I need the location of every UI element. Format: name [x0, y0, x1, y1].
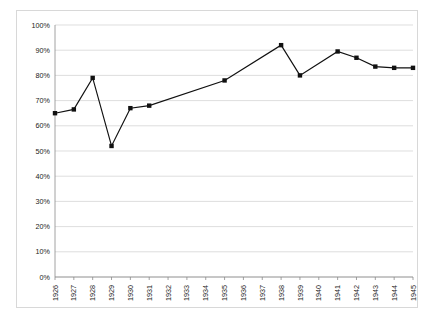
data-point-marker — [373, 64, 377, 68]
x-axis-tick-label: 1945 — [409, 285, 418, 301]
data-point-marker — [147, 103, 151, 107]
chart-frame: 0%10%20%30%40%50%60%70%80%90%100% 192619… — [16, 10, 418, 308]
x-axis-tick-label: 1932 — [164, 285, 173, 301]
y-axis-tick-label: 20% — [36, 222, 51, 231]
x-axis-labels-group: 1926192719281929193019311932193319341935… — [51, 285, 418, 301]
x-axis-tick-label: 1930 — [126, 285, 135, 301]
x-axis-tick-label: 1929 — [107, 285, 116, 301]
x-axis-tick-label: 1931 — [145, 285, 154, 301]
x-axis-tick-label: 1934 — [201, 285, 210, 301]
x-axis-tick-label: 1943 — [371, 285, 380, 301]
series-line-1 — [55, 45, 413, 146]
y-axis-tick-label: 80% — [36, 71, 51, 80]
y-axis-tick-label: 60% — [36, 121, 51, 130]
x-axis-tick-label: 1939 — [296, 285, 305, 301]
data-point-marker — [72, 107, 76, 111]
data-point-marker — [109, 144, 113, 148]
y-axis-tick-label: 40% — [36, 172, 51, 181]
line-chart: 0%10%20%30%40%50%60%70%80%90%100% 192619… — [17, 11, 419, 309]
data-point-marker — [335, 49, 339, 53]
gridlines-group — [55, 25, 413, 277]
y-axis-tick-label: 0% — [40, 273, 51, 282]
data-point-marker — [392, 66, 396, 70]
x-axis-tick-label: 1926 — [51, 285, 60, 301]
x-axis-tick-label: 1940 — [314, 285, 323, 301]
data-point-marker — [354, 56, 358, 60]
x-axis-tick-label: 1942 — [352, 285, 361, 301]
y-axis-tick-label: 70% — [36, 96, 51, 105]
data-point-marker — [128, 106, 132, 110]
data-point-marker — [53, 111, 57, 115]
x-axis-ticks-group — [55, 277, 413, 280]
data-point-marker — [411, 66, 415, 70]
x-axis-tick-label: 1933 — [182, 285, 191, 301]
data-point-marker — [90, 76, 94, 80]
y-axis-tick-label: 30% — [36, 197, 51, 206]
data-point-marker — [298, 73, 302, 77]
y-axis-tick-label: 90% — [36, 46, 51, 55]
x-axis-tick-label: 1936 — [239, 285, 248, 301]
x-axis-tick-label: 1941 — [333, 285, 342, 301]
x-axis-tick-label: 1944 — [390, 285, 399, 301]
y-axis-tick-label: 50% — [36, 147, 51, 156]
x-axis-tick-label: 1935 — [220, 285, 229, 301]
chart-plot-area: 0%10%20%30%40%50%60%70%80%90%100% 192619… — [17, 11, 419, 309]
data-point-marker — [222, 78, 226, 82]
series-markers-1 — [53, 43, 415, 148]
y-axis-tick-label: 100% — [32, 21, 51, 30]
x-axis-tick-label: 1937 — [258, 285, 267, 301]
y-axis-labels-group: 0%10%20%30%40%50%60%70%80%90%100% — [32, 21, 51, 282]
x-axis-tick-label: 1928 — [88, 285, 97, 301]
x-axis-tick-label: 1927 — [69, 285, 78, 301]
x-axis-tick-label: 1938 — [277, 285, 286, 301]
data-point-marker — [279, 43, 283, 47]
y-axis-tick-label: 10% — [36, 247, 51, 256]
